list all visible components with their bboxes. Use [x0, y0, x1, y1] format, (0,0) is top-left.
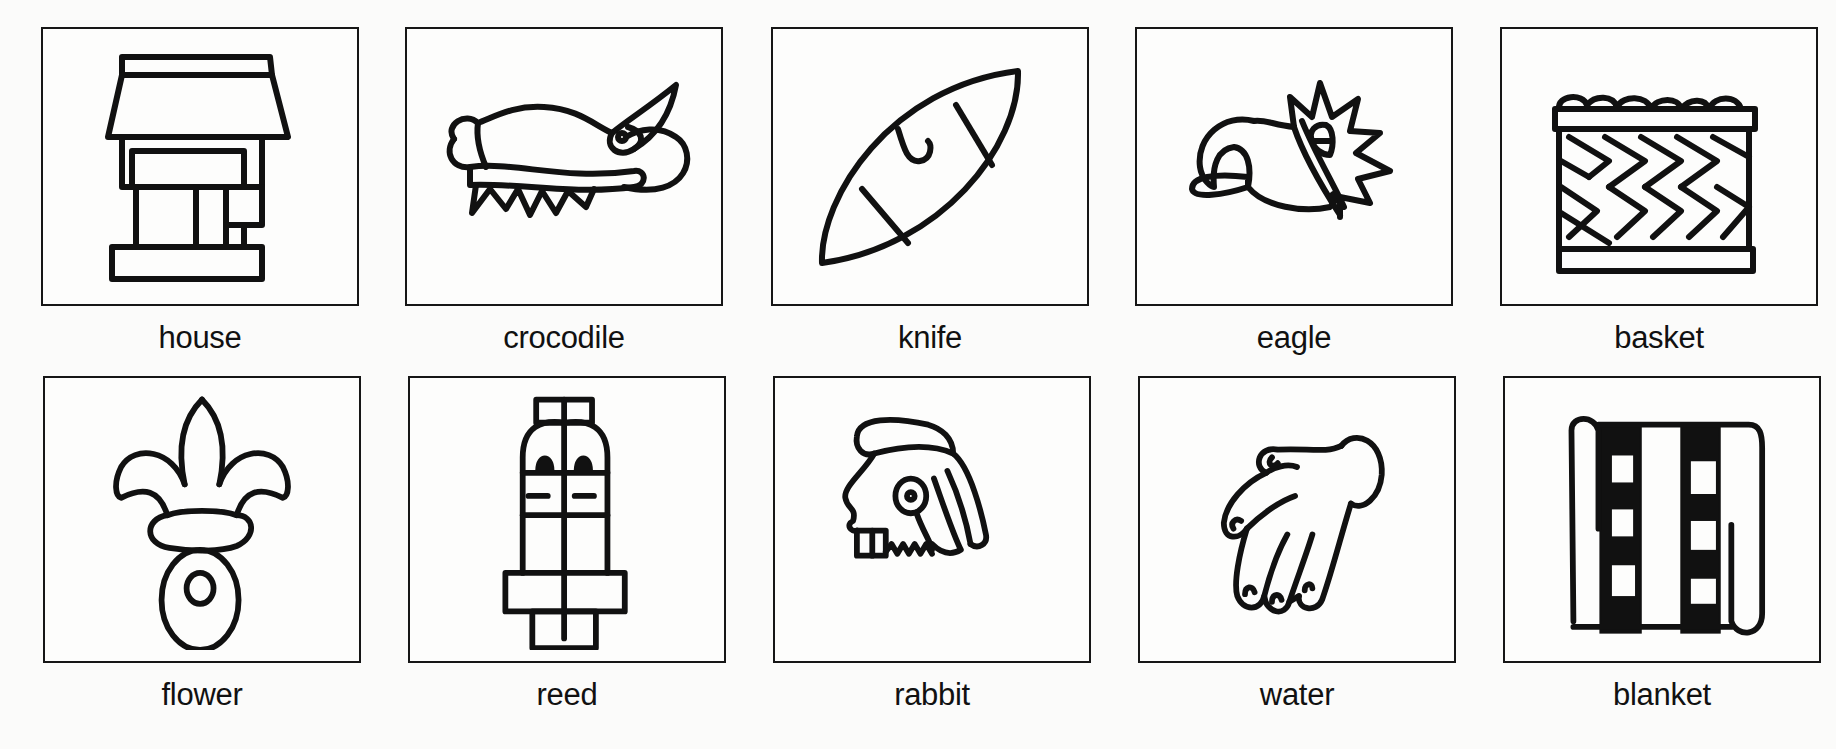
glyph-frame [405, 27, 723, 306]
glyph-label: eagle [1135, 320, 1453, 356]
glyph-frame [1138, 376, 1456, 663]
flower-icon [52, 390, 352, 650]
glyph-frame [771, 27, 1089, 306]
glyph-frame [43, 376, 361, 663]
crocodile-icon [414, 37, 714, 297]
glyph-label: reed [408, 677, 726, 713]
glyph-card-reed: reed [408, 376, 726, 713]
glyph-frame [1500, 27, 1818, 306]
blanket-icon [1512, 390, 1812, 650]
glyph-label: water [1138, 677, 1456, 713]
eagle-icon [1144, 37, 1444, 297]
basket-icon [1509, 37, 1809, 297]
glyph-label: knife [771, 320, 1089, 356]
glyph-label: flower [43, 677, 361, 713]
glyph-frame [1135, 27, 1453, 306]
glyph-card-blanket: blanket [1503, 376, 1821, 713]
glyph-card-water: water [1138, 376, 1456, 713]
glyph-frame [41, 27, 359, 306]
glyph-card-flower: flower [43, 376, 361, 713]
glyph-card-house: house [41, 27, 359, 356]
glyph-label: basket [1500, 320, 1818, 356]
glyph-card-eagle: eagle [1135, 27, 1453, 356]
glyph-label: rabbit [773, 677, 1091, 713]
glyph-card-basket: basket [1500, 27, 1818, 356]
knife-icon [780, 37, 1080, 297]
water-icon [1147, 390, 1447, 650]
house-icon [50, 37, 350, 297]
reed-icon [417, 390, 717, 650]
glyph-card-rabbit: rabbit [773, 376, 1091, 713]
glyph-label: blanket [1503, 677, 1821, 713]
glyph-card-knife: knife [771, 27, 1089, 356]
glyph-frame [1503, 376, 1821, 663]
glyph-frame [773, 376, 1091, 663]
rabbit-icon [782, 390, 1082, 650]
glyph-label: crocodile [405, 320, 723, 356]
glyph-frame [408, 376, 726, 663]
glyph-card-crocodile: crocodile [405, 27, 723, 356]
glyph-label: house [41, 320, 359, 356]
